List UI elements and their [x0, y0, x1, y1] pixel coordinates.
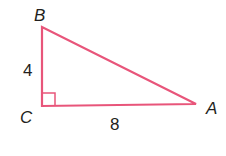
side-label-bc: 4 — [23, 61, 32, 80]
vertex-label-a: A — [205, 99, 217, 118]
triangle-diagram: B 4 C 8 A — [0, 0, 226, 156]
triangle-abc — [42, 27, 196, 106]
vertex-label-c: C — [20, 108, 33, 127]
vertex-label-b: B — [34, 6, 45, 25]
side-label-ca: 8 — [110, 115, 119, 134]
right-angle-marker — [42, 93, 55, 106]
